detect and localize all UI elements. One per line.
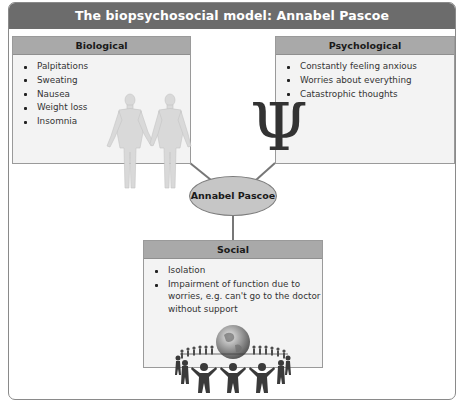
list-item: Isolation — [154, 264, 322, 276]
social-heading: Social — [144, 241, 322, 259]
list-item: Sweating — [23, 74, 190, 88]
list-item: Palpitations — [23, 60, 190, 74]
psychological-heading: Psychological — [276, 37, 454, 55]
list-item: Catastrophic thoughts — [286, 88, 454, 102]
center-node-annabel-pascoe: Annabel Pascoe — [189, 176, 277, 216]
psi-symbol-icon: Ψ — [250, 95, 308, 161]
human-figures-icon — [100, 92, 196, 192]
list-item: Impairment of function due to worries, e… — [154, 278, 322, 315]
globe-people-ring-icon — [168, 325, 298, 395]
list-item: Worries about everything — [286, 74, 454, 88]
biological-heading: Biological — [13, 37, 190, 55]
list-item: Constantly feeling anxious — [286, 60, 454, 74]
social-list: Isolation Impairment of function due to … — [144, 259, 322, 315]
